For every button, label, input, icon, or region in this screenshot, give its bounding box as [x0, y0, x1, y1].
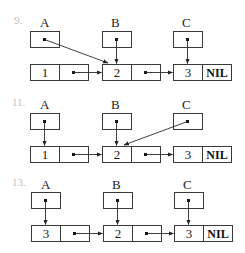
- linked-list-diagrams: 9. A B C 1 2 3 NIL: [0, 0, 245, 253]
- nil-label: NIL: [207, 227, 228, 241]
- node-value: 1: [42, 65, 49, 80]
- node-3: 3 NIL: [174, 65, 232, 81]
- node-value: 3: [186, 226, 193, 241]
- node-value: 2: [115, 226, 122, 241]
- pointer-label-a: A: [41, 177, 51, 192]
- arrow-a-to-node-2: [45, 40, 109, 64]
- diagram-number: 13.: [12, 176, 26, 188]
- pointer-label-b: B: [112, 177, 121, 192]
- diagram-11: 11. A B C 1 2 3 NIL: [12, 96, 232, 163]
- pointer-label-c: C: [182, 15, 191, 30]
- node-value: 2: [114, 65, 121, 80]
- diagram-number: 9.: [14, 14, 23, 26]
- node-3: 3 NIL: [175, 226, 233, 242]
- node-value: 3: [185, 65, 192, 80]
- node-value: 3: [43, 226, 50, 241]
- pointer-label-b: B: [111, 15, 120, 30]
- pointer-label-c: C: [182, 97, 191, 112]
- diagram-9: 9. A B C 1 2 3 NIL: [14, 14, 232, 81]
- diagram-13: 13. A B C 3 2 3 NIL: [12, 176, 233, 242]
- node-value: 3: [185, 147, 192, 162]
- pointer-label-a: A: [40, 15, 50, 30]
- pointer-label-b: B: [111, 97, 120, 112]
- node-value: 1: [42, 147, 49, 162]
- arrow-c-to-node-2: [124, 122, 188, 146]
- nil-label: NIL: [206, 66, 227, 80]
- node-value: 2: [114, 147, 121, 162]
- diagram-number: 11.: [12, 96, 26, 108]
- pointer-label-c: C: [183, 177, 192, 192]
- nil-label: NIL: [206, 148, 227, 162]
- node-3: 3 NIL: [174, 147, 232, 163]
- pointer-label-a: A: [40, 97, 50, 112]
